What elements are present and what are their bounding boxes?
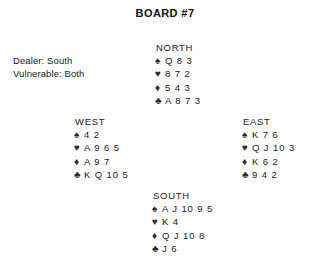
club-icon: ♣ (242, 168, 252, 181)
board-title: BOARD #7 (0, 7, 330, 19)
hand-west-hearts-row: ♥ A 9 6 5 (74, 141, 129, 154)
heart-icon: ♥ (155, 67, 165, 80)
hand-south: SOUTH ♠ A J 10 9 5 ♥ K 4 ♦ Q J 10 8 ♣ J … (152, 189, 213, 255)
hand-south-spades: A J 10 9 5 (162, 202, 213, 215)
hand-north-hearts: 8 7 2 (165, 67, 191, 80)
spade-icon: ♠ (155, 54, 165, 67)
spade-icon: ♠ (74, 128, 84, 141)
hand-west-clubs: K Q 10 5 (84, 168, 129, 181)
spade-icon: ♠ (242, 128, 252, 141)
hand-east-spades-row: ♠ K 7 6 (242, 128, 295, 141)
hand-west-diamonds-row: ♦ A 9 7 (74, 155, 129, 168)
hand-east-spades: K 7 6 (252, 128, 279, 141)
deal-info: Dealer: South Vulnerable: Both (13, 54, 85, 80)
heart-icon: ♥ (152, 215, 162, 228)
hand-south-label: SOUTH (152, 189, 213, 202)
hand-north-hearts-row: ♥ 8 7 2 (155, 67, 201, 80)
club-icon: ♣ (152, 242, 162, 255)
hand-east: EAST ♠ K 7 6 ♥ Q J 10 3 ♦ K 6 2 ♣ 9 4 2 (242, 115, 295, 181)
hand-east-diamonds: K 6 2 (252, 155, 279, 168)
hand-west-hearts: A 9 6 5 (84, 141, 120, 154)
hand-south-clubs-row: ♣ J 6 (152, 242, 213, 255)
hand-east-clubs-row: ♣ 9 4 2 (242, 168, 295, 181)
spade-icon: ♠ (152, 202, 162, 215)
hand-south-hearts-row: ♥ K 4 (152, 215, 213, 228)
club-icon: ♣ (155, 94, 165, 107)
diamond-icon: ♦ (74, 155, 84, 168)
hand-west: WEST ♠ 4 2 ♥ A 9 6 5 ♦ A 9 7 ♣ K Q 10 5 (74, 115, 129, 181)
hand-west-clubs-row: ♣ K Q 10 5 (74, 168, 129, 181)
hand-west-diamonds: A 9 7 (84, 155, 110, 168)
hand-east-hearts: Q J 10 3 (252, 141, 295, 154)
hand-north: NORTH ♠ Q 8 3 ♥ 8 7 2 ♦ 5 4 3 ♣ A 8 7 3 (155, 41, 201, 107)
club-icon: ♣ (74, 168, 84, 181)
hand-south-diamonds: Q J 10 8 (162, 229, 205, 242)
hand-south-hearts: K 4 (162, 215, 179, 228)
bridge-deal-diagram: BOARD #7 Dealer: South Vulnerable: Both … (0, 0, 330, 271)
hand-south-clubs: J 6 (162, 242, 177, 255)
heart-icon: ♥ (242, 141, 252, 154)
hand-north-diamonds-row: ♦ 5 4 3 (155, 81, 201, 94)
diamond-icon: ♦ (155, 81, 165, 94)
dealer-label: Dealer: South (13, 54, 85, 67)
hand-south-spades-row: ♠ A J 10 9 5 (152, 202, 213, 215)
hand-north-clubs: A 8 7 3 (165, 94, 201, 107)
hand-east-diamonds-row: ♦ K 6 2 (242, 155, 295, 168)
diamond-icon: ♦ (242, 155, 252, 168)
hand-north-label: NORTH (155, 41, 201, 54)
hand-west-spades: 4 2 (84, 128, 100, 141)
hand-east-label: EAST (242, 115, 295, 128)
hand-north-spades: Q 8 3 (165, 54, 193, 67)
hand-south-diamonds-row: ♦ Q J 10 8 (152, 229, 213, 242)
hand-east-hearts-row: ♥ Q J 10 3 (242, 141, 295, 154)
hand-north-spades-row: ♠ Q 8 3 (155, 54, 201, 67)
heart-icon: ♥ (74, 141, 84, 154)
hand-west-spades-row: ♠ 4 2 (74, 128, 129, 141)
hand-east-clubs: 9 4 2 (252, 168, 278, 181)
hand-north-diamonds: 5 4 3 (165, 81, 191, 94)
diamond-icon: ♦ (152, 229, 162, 242)
vulnerable-label: Vulnerable: Both (13, 67, 85, 80)
hand-west-label: WEST (74, 115, 129, 128)
hand-north-clubs-row: ♣ A 8 7 3 (155, 94, 201, 107)
